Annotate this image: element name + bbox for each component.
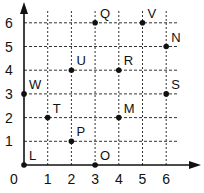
point-label-t: T [53, 101, 61, 116]
point-label-v: V [148, 6, 157, 21]
y-tick-label: 4 [5, 62, 13, 78]
x-tick-label: 2 [68, 171, 76, 187]
x-tick-label: 1 [44, 171, 52, 187]
x-axis-arrow-icon [189, 161, 201, 169]
point-label-o: O [100, 148, 110, 163]
y-tick-label: 2 [5, 110, 13, 126]
point-label-p: P [76, 124, 85, 139]
point-label-l: L [29, 148, 36, 163]
y-tick-label: 3 [5, 86, 13, 102]
point-label-u: U [76, 53, 85, 68]
x-tick-label: 0 [10, 171, 18, 187]
point-s [163, 91, 169, 97]
point-q [92, 20, 98, 26]
point-n [163, 44, 169, 50]
point-label-s: S [171, 77, 180, 92]
point-l [21, 162, 27, 168]
x-tick-label: 4 [115, 171, 123, 187]
point-r [116, 67, 122, 73]
point-label-m: M [124, 101, 135, 116]
coordinate-grid-chart: 0123456123456LOPTMWSURNQV [0, 0, 204, 193]
point-label-r: R [124, 53, 133, 68]
y-tick-label: 1 [5, 133, 13, 149]
point-w [21, 91, 27, 97]
point-o [92, 162, 98, 168]
point-m [116, 115, 122, 121]
point-label-w: W [29, 77, 42, 92]
point-label-q: Q [100, 6, 110, 21]
x-tick-label: 6 [162, 171, 170, 187]
point-t [45, 115, 51, 121]
y-axis-arrow-icon [20, 2, 28, 14]
x-tick-label: 3 [91, 171, 99, 187]
x-tick-label: 5 [139, 171, 147, 187]
point-u [69, 67, 75, 73]
y-tick-label: 6 [5, 15, 13, 31]
y-tick-label: 5 [5, 39, 13, 55]
point-v [140, 20, 146, 26]
point-p [69, 139, 75, 145]
point-label-n: N [171, 30, 180, 45]
